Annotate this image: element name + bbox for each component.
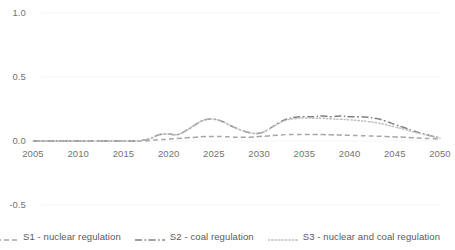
x-tick-label: 2040	[330, 148, 370, 159]
series-layer	[33, 116, 440, 141]
y-tick-label: 1.0	[0, 7, 26, 18]
legend-label: S2 - coal regulation	[170, 231, 254, 242]
x-tick-label: 2050	[420, 148, 455, 159]
legend-item-3[interactable]: S3 - nuclear and coal regulation	[268, 231, 440, 242]
legend-label: S3 - nuclear and coal regulation	[303, 231, 440, 242]
y-tick-label: 0.5	[0, 71, 26, 82]
x-tick-label: 2035	[284, 148, 324, 159]
x-tick-label: 2030	[239, 148, 279, 159]
x-tick-label: 2005	[13, 148, 53, 159]
legend-swatch-icon	[135, 231, 165, 241]
x-tick-label: 2020	[149, 148, 189, 159]
chart-legend: S1 - nuclear regulationS2 - coal regulat…	[0, 226, 442, 246]
legend-swatch-icon	[268, 231, 298, 241]
series-line-1	[33, 135, 440, 142]
x-tick-label: 2015	[103, 148, 143, 159]
gridlines	[41, 13, 440, 205]
legend-swatch-icon	[0, 231, 18, 241]
x-tick-label: 2010	[58, 148, 98, 159]
legend-item-2[interactable]: S2 - coal regulation	[135, 231, 254, 242]
y-tick-label: 0.0	[0, 135, 26, 146]
y-tick-label: -0.5	[0, 199, 26, 210]
legend-label: S1 - nuclear regulation	[23, 231, 121, 242]
legend-item-1[interactable]: S1 - nuclear regulation	[0, 231, 121, 242]
x-tick-label: 2025	[194, 148, 234, 159]
x-tick-label: 2045	[375, 148, 415, 159]
